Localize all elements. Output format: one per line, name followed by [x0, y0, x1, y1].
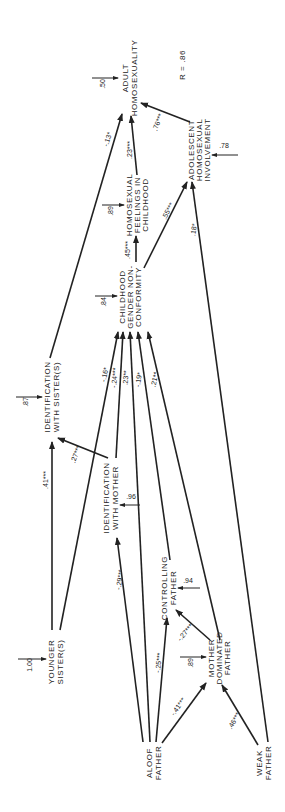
edges: .76*** .23*** -.13* .45*** .55*** .18* -…	[42, 103, 268, 745]
coef-aloof-cgn: .23**	[122, 370, 130, 386]
svg-text:ALOOF: ALOOF	[145, 748, 154, 778]
resid-cf: .94	[183, 577, 193, 584]
svg-text:FATHER: FATHER	[169, 571, 178, 606]
svg-text:IDENTIFICATION: IDENTIFICATION	[43, 361, 52, 432]
coef-cf-cgn: -.19*	[134, 372, 143, 388]
coef-idsis-adult: -.13*	[102, 131, 113, 147]
fit-statistic: R = .86	[178, 50, 187, 80]
svg-text:IDENTIFICATION: IDENTIFICATION	[102, 462, 111, 533]
node-controlling-father: CONTROLLING FATHER	[160, 556, 178, 620]
edge-cgn-ahi	[144, 182, 187, 268]
coef-mdf-cgn: .21**	[149, 371, 159, 388]
node-aloof-father: ALOOF FATHER	[145, 746, 163, 781]
resid-idsis: .87	[22, 397, 29, 407]
svg-text:CONFORMITY: CONFORMITY	[134, 267, 143, 327]
coef-weak-mdf: .46***	[226, 711, 241, 730]
svg-text:FATHER: FATHER	[264, 746, 273, 781]
node-homosexual-feelings-childhood: HOMOSEXUAL FEELINGS IN CHILDHOOD	[125, 174, 150, 236]
edge-idm-idsis	[58, 438, 108, 458]
node-younger-sisters: YOUNGER SISTER(S)	[47, 640, 65, 685]
edge-idsis-adult	[50, 114, 122, 358]
resid-hfc: .89	[107, 206, 114, 216]
edge-mdf-cgn	[148, 332, 220, 640]
svg-text:WEAK: WEAK	[255, 750, 264, 776]
edge-aloof-idm	[117, 538, 143, 742]
coef-hfc-adult: .23***	[126, 141, 133, 159]
svg-text:SISTER(S): SISTER(S)	[56, 640, 65, 685]
svg-text:CONTROLLING: CONTROLLING	[160, 556, 169, 620]
coef-mdf-cf: -.27***	[176, 622, 195, 642]
svg-text:FATHER: FATHER	[154, 746, 163, 781]
coef-ys-idsis: .41***	[42, 471, 49, 489]
coef-idm-cgn: -.24***	[110, 367, 118, 388]
edge-cf-cgn	[138, 332, 170, 560]
svg-text:WITH MOTHER: WITH MOTHER	[111, 466, 120, 530]
resid-cgn: .84	[100, 297, 107, 307]
coef-ahi-adult: .76***	[151, 112, 164, 131]
svg-text:INVOLVEMENT: INVOLVEMENT	[203, 118, 212, 181]
svg-text:HOMOSEXUALITY: HOMOSEXUALITY	[130, 40, 139, 117]
node-weak-father: WEAK FATHER	[255, 746, 273, 781]
edge-ahi-adult	[141, 103, 190, 122]
resid-idm: .96	[126, 493, 136, 500]
resid-ahi: .78	[219, 142, 229, 149]
path-diagram: R = .86 .76*** .23*** -.13* .45*** .55**…	[0, 0, 285, 812]
resid-adult: .50	[99, 79, 106, 89]
svg-text:CHILDHOOD: CHILDHOOD	[141, 178, 150, 231]
node-adolescent-homosexual-involvement: ADOLESCENT HOMOSEXUAL INVOLVEMENT	[187, 118, 212, 181]
node-adult-homosexuality: ADULT HOMOSEXUALITY	[121, 40, 139, 117]
coef-idm-idsis: .27***	[69, 444, 82, 463]
coef-weak-ahi: .18*	[189, 223, 198, 237]
svg-text:FATHER: FATHER	[223, 641, 232, 676]
resid-ys: 1.00	[26, 658, 33, 672]
node-identification-with-mother: IDENTIFICATION WITH MOTHER	[102, 462, 120, 533]
coef-cgn-hfc: .45***	[124, 241, 131, 259]
node-mother-dominated-father: MOTHER DOMINATED FATHER	[207, 632, 232, 685]
svg-text:WITH SISTER(S): WITH SISTER(S)	[52, 362, 61, 433]
svg-text:ADULT: ADULT	[121, 64, 130, 93]
edge-aloof-cf	[156, 618, 167, 742]
resid-mdf: .89	[187, 658, 194, 668]
node-childhood-gender-nonconformity: CHILDHOOD GENDER NON- CONFORMITY	[118, 265, 143, 329]
svg-text:YOUNGER: YOUNGER	[47, 640, 56, 685]
edge-idm-cgn	[116, 332, 123, 458]
node-identification-with-sisters: IDENTIFICATION WITH SISTER(S)	[43, 361, 61, 432]
